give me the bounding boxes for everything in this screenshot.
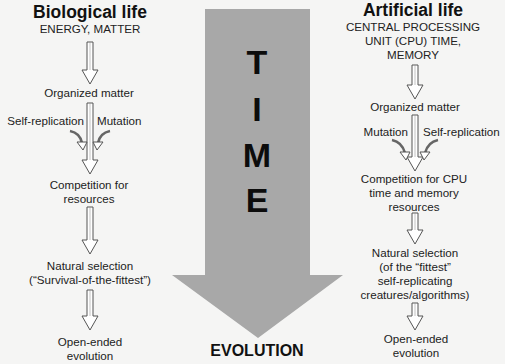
left-outcome-line1: Open-ended (58, 336, 122, 348)
left-input-arrowhead-mutation (93, 142, 103, 150)
right-title: Artificial life (363, 2, 463, 20)
time-letter-e: E (246, 183, 269, 217)
right-competition-line2: time and memory (369, 187, 459, 199)
right-organized-matter: Organized matter (370, 101, 460, 113)
right-competition-line3: resources (389, 201, 440, 213)
right-resources-line3: MEMORY (387, 49, 439, 61)
left-organized-matter: Organized matter (44, 87, 134, 99)
right-resources-line2: UNIT (CPU) TIME, (365, 35, 461, 47)
left-selection-line1: Natural selection (47, 260, 133, 272)
time-letter-t: T (247, 45, 268, 79)
right-selection-line2: (of the “fittest” (379, 261, 451, 273)
left-competition-line2: resources (64, 193, 115, 205)
right-resources-line1: CENTRAL PROCESSING (346, 21, 480, 33)
right-selection-line1: Natural selection (372, 247, 458, 259)
right-outcome-line2: evolution (393, 347, 439, 359)
time-letter-m: M (243, 138, 271, 172)
left-input-mutation: Mutation (97, 115, 141, 127)
right-competition-line1: Competition for CPU (361, 173, 467, 185)
left-title: Biological life (33, 4, 147, 22)
right-selection-line3: self-replicating (378, 275, 453, 287)
left-selection-line2: (“Survival-of-the-fittest”) (29, 274, 151, 286)
right-outcome-line1: Open-ended (384, 333, 448, 345)
left-resources: ENERGY, MATTER (40, 23, 141, 35)
right-input-self-replication: Self-replication (423, 126, 500, 138)
time-letter-i: I (252, 92, 261, 126)
right-input-mutation: Mutation (364, 126, 408, 138)
left-input-self-replication: Self-replication (7, 115, 84, 127)
left-outcome-line2: evolution (67, 350, 113, 362)
right-selection-line4: creatures/algorithms) (361, 289, 470, 301)
evolution-diagram: T I M E EVOLUTION Biological life ENERGY… (0, 0, 505, 364)
left-competition-line1: Competition for (50, 179, 129, 191)
evolution-label: EVOLUTION (210, 343, 303, 359)
left-input-arrowhead-self-replication (77, 142, 87, 150)
